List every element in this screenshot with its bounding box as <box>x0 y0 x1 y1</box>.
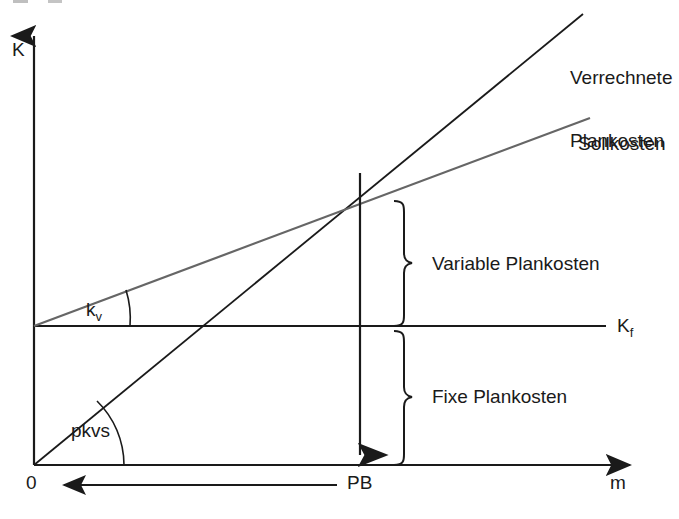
y-axis-label: K <box>12 39 25 60</box>
x-axis-label: m <box>610 472 626 493</box>
pkvs-angle-label: pkvs <box>71 420 110 441</box>
variable-plankosten-brace <box>394 201 412 326</box>
scan-artifact <box>48 0 62 3</box>
kv-angle-label-subscript: v <box>96 309 103 324</box>
diagram-canvas: K m 0 PB Kf kv pkvs Verrechnete Plankost… <box>0 0 679 519</box>
kv-angle-arc <box>126 290 130 326</box>
fixe-plankosten-label: Fixe Plankosten <box>432 386 567 407</box>
sollkosten-line <box>34 118 590 326</box>
kv-angle-label-base: k <box>86 299 96 320</box>
scan-artifact <box>13 0 28 3</box>
verrechnete-plankosten-label: Verrechnete Plankosten <box>570 24 672 194</box>
variable-plankosten-label: Variable Plankosten <box>432 253 600 274</box>
kv-angle-label: kv <box>86 299 102 324</box>
fixed-cost-label: Kf <box>617 315 633 340</box>
verrechnete-plankosten-label-line1: Verrechnete <box>570 67 672 88</box>
pb-label: PB <box>347 472 372 493</box>
origin-label: 0 <box>26 472 37 493</box>
fixed-cost-label-subscript: f <box>630 325 634 340</box>
fixe-plankosten-brace <box>394 331 412 465</box>
sollkosten-label: Sollkosten <box>578 133 666 154</box>
fixed-cost-label-base: K <box>617 315 630 336</box>
